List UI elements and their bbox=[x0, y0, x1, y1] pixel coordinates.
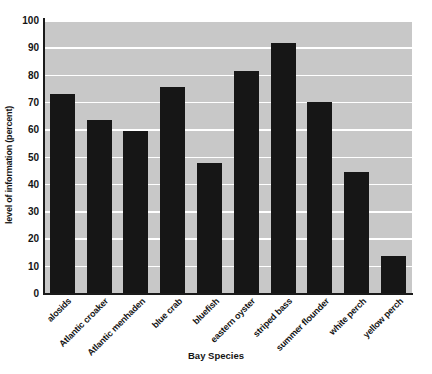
y-axis-title-text: level of information (percent) bbox=[4, 106, 14, 224]
x-tick-label: blue crab bbox=[150, 296, 184, 330]
y-axis-tick-labels: 1009080706050403020100 bbox=[14, 0, 42, 374]
bar-chart-figure: level of information (percent) 100908070… bbox=[0, 0, 432, 374]
y-tick-label: 100 bbox=[22, 15, 39, 26]
x-axis-title: Bay Species bbox=[0, 350, 432, 361]
plot-area bbox=[44, 20, 412, 293]
y-tick-label: 40 bbox=[28, 178, 39, 189]
bar bbox=[123, 131, 148, 293]
y-tick-label: 70 bbox=[28, 96, 39, 107]
y-tick-label: 30 bbox=[28, 206, 39, 217]
bar bbox=[197, 163, 222, 293]
y-tick-label: 60 bbox=[28, 124, 39, 135]
y-tick-label: 20 bbox=[28, 233, 39, 244]
bar bbox=[307, 102, 332, 293]
bar bbox=[381, 256, 406, 293]
bar bbox=[271, 43, 296, 293]
y-tick-label: 90 bbox=[28, 42, 39, 53]
x-axis-tick-labels: alosidsAtlantic croakerAtlantic menhaden… bbox=[44, 294, 412, 352]
y-tick-label: 80 bbox=[28, 69, 39, 80]
bar bbox=[160, 87, 185, 293]
bar bbox=[87, 120, 112, 293]
bars-group bbox=[44, 20, 412, 293]
y-axis-line bbox=[43, 18, 45, 295]
y-tick-label: 50 bbox=[28, 151, 39, 162]
bar bbox=[344, 172, 369, 293]
y-tick-label: 10 bbox=[28, 260, 39, 271]
x-tick-label: alosids bbox=[45, 296, 73, 324]
bar bbox=[234, 71, 259, 293]
y-tick-label: 0 bbox=[33, 288, 39, 299]
x-tick-label: bluefish bbox=[190, 296, 220, 326]
bar bbox=[50, 94, 75, 293]
